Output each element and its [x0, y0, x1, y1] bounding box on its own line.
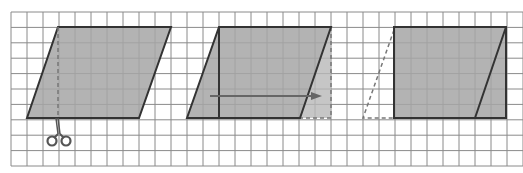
diagram-canvas: [0, 0, 523, 173]
original-parallelogram: [27, 27, 171, 146]
triangle-translation-figure: [187, 27, 331, 118]
rectangle-shape: [394, 27, 506, 118]
scissors-handle-right: [62, 137, 71, 146]
scissors-handle-left: [48, 137, 57, 146]
parallelogram-to-rectangle-diagram: [0, 0, 523, 173]
